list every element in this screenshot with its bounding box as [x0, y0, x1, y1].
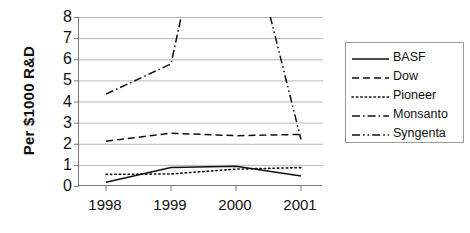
y-tick-label: 3: [46, 115, 72, 131]
series-line-dow: [106, 133, 301, 141]
series-line-basf: [106, 166, 301, 182]
x-tick-label: 1998: [75, 196, 135, 213]
y-tick-label: 5: [46, 72, 72, 88]
legend-item-monsanto[interactable]: Monsanto: [346, 104, 463, 123]
y-tick-label: 1: [46, 157, 72, 173]
legend-item-label: BASF: [393, 50, 426, 64]
legend-line-swatch: [351, 70, 390, 82]
legend-item-label: Syngenta: [393, 126, 446, 140]
data-series-lines: [79, 17, 323, 186]
y-tick-label: 6: [46, 51, 72, 67]
y-tick-label: 0: [46, 178, 72, 194]
x-tick-label: 2001: [270, 196, 330, 213]
y-tick-label: 7: [46, 30, 72, 46]
y-tick-label: 2: [46, 136, 72, 152]
y-axis-title: Per $1000 R&D: [20, 11, 37, 191]
legend-line-swatch: [351, 51, 390, 63]
legend-item-label: Monsanto: [393, 107, 448, 121]
x-tick-label: 2000: [205, 196, 265, 213]
legend-line-swatch: [351, 89, 390, 101]
legend-item-syngenta[interactable]: Syngenta: [346, 123, 463, 142]
legend-item-basf[interactable]: BASF: [346, 47, 463, 66]
chart-figure: Per $1000 R&D 012345678 1998199920002001…: [0, 0, 470, 233]
x-tick-label: 1999: [140, 196, 200, 213]
legend-item-pioneer[interactable]: Pioneer: [346, 85, 463, 104]
legend-item-dow[interactable]: Dow: [346, 66, 463, 85]
legend-item-label: Dow: [393, 69, 418, 83]
legend-item-label: Pioneer: [393, 88, 436, 102]
y-axis-tick-labels: 012345678: [44, 0, 72, 233]
series-line-monsanto: [106, 0, 301, 94]
y-tick-label: 4: [46, 94, 72, 110]
series-line-syngenta: [106, 0, 301, 140]
plot-area: [78, 17, 322, 186]
legend-line-swatch: [351, 108, 390, 120]
legend-line-swatch: [351, 127, 390, 139]
y-tick-label: 8: [46, 9, 72, 25]
chart-legend: BASFDowPioneerMonsantoSyngenta: [345, 42, 464, 143]
